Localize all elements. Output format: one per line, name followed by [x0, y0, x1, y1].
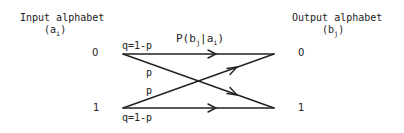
- channel-edges: [0, 0, 404, 133]
